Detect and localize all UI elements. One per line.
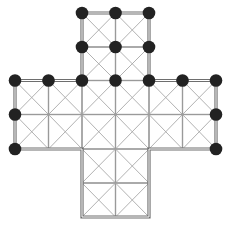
node-dot <box>76 41 89 54</box>
node-dot <box>76 74 89 87</box>
grid-cell <box>49 115 83 150</box>
grid-cell <box>183 81 217 115</box>
grid-cell <box>15 81 49 115</box>
node-dot <box>210 143 223 156</box>
cross-grid-diagram <box>0 0 228 225</box>
grid-cell <box>82 47 116 81</box>
node-dot <box>42 74 55 87</box>
node-dot <box>9 108 22 121</box>
node-dot <box>210 108 223 121</box>
node-dot <box>9 74 22 87</box>
node-dot <box>176 74 189 87</box>
grid-cell <box>82 81 116 115</box>
grid-cell <box>116 13 150 47</box>
node-dot <box>143 7 156 20</box>
grid-cell <box>149 81 183 115</box>
node-dot <box>109 7 122 20</box>
grid-cell <box>183 115 217 150</box>
grid-cell <box>116 115 150 150</box>
node-dot <box>143 41 156 54</box>
grid-cell <box>82 183 116 217</box>
grid-cell <box>149 115 183 150</box>
grid-cell <box>116 47 150 81</box>
grid-cell <box>116 183 150 217</box>
grid-cell <box>49 81 83 115</box>
node-dot <box>76 7 89 20</box>
node-dot <box>109 41 122 54</box>
grid-cell <box>82 115 116 150</box>
node-dot <box>210 74 223 87</box>
grid-cell <box>15 115 49 150</box>
node-dot <box>109 74 122 87</box>
grid-cell <box>116 81 150 115</box>
grid-cell <box>116 149 150 183</box>
node-dot <box>143 74 156 87</box>
node-dot <box>9 143 22 156</box>
grid-cell <box>82 13 116 47</box>
grid-cell <box>82 149 116 183</box>
